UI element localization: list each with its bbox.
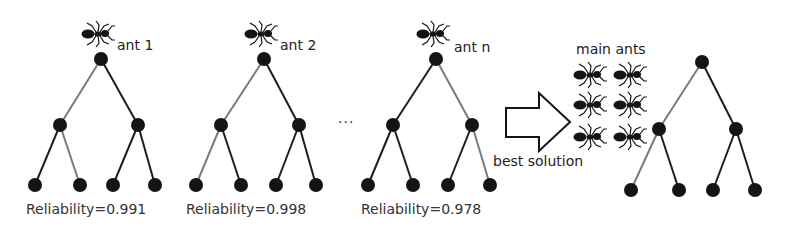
ant-icon	[417, 21, 451, 47]
ant-icon	[574, 124, 608, 150]
diagram-canvas	[0, 0, 789, 227]
ant-icon	[82, 21, 116, 47]
reliability-n: Reliability=0.978	[361, 202, 481, 216]
ellipsis: ...	[338, 110, 354, 126]
ant-icon	[614, 124, 648, 150]
ant-icon	[574, 92, 608, 118]
ant-2-label: ant 2	[280, 38, 316, 52]
ant-n-label: ant n	[454, 40, 490, 54]
best-solution-label: best solution	[493, 154, 583, 168]
best-solution-tree	[624, 55, 762, 197]
ant-icon	[614, 92, 648, 118]
ant-icon	[245, 21, 279, 47]
main-ants-group	[574, 62, 648, 150]
ant-icon	[574, 62, 608, 88]
ant-icon	[614, 62, 648, 88]
ant-1-label: ant 1	[117, 38, 153, 52]
reliability-1: Reliability=0.991	[26, 202, 146, 216]
reliability-2: Reliability=0.998	[186, 202, 306, 216]
main-ants-label: main ants	[576, 42, 646, 56]
right-arrow-icon	[506, 93, 570, 151]
